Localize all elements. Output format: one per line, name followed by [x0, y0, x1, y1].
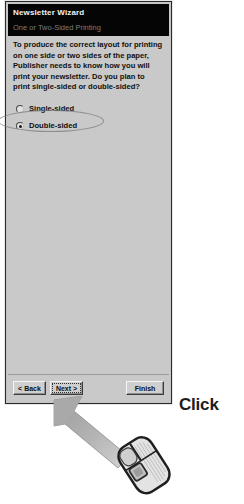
dialog-subtitle: One or Two-Sided Printing [13, 22, 169, 33]
radio-button-selected-icon[interactable] [16, 122, 24, 130]
radio-option-single-sided[interactable]: Single-sided [13, 102, 163, 116]
dialog-title-bar: Newsletter Wizard One or Two-Sided Print… [8, 4, 169, 36]
radio-label-double-sided: Double-sided [29, 121, 77, 130]
radio-label-single-sided: Single-sided [29, 104, 74, 113]
dialog-button-bar: < Back Next > Finish [8, 374, 169, 401]
click-annotation-label: Click [179, 395, 219, 415]
radio-button-icon[interactable] [16, 105, 24, 113]
instruction-text: To produce the correct layout for printi… [13, 40, 163, 93]
back-button[interactable]: < Back [13, 381, 46, 395]
finish-button[interactable]: Finish [126, 381, 164, 395]
next-button[interactable]: Next > [50, 381, 83, 395]
newsletter-wizard-dialog: Newsletter Wizard One or Two-Sided Print… [5, 1, 172, 404]
printing-sides-radio-group[interactable]: Single-sided Double-sided [13, 102, 163, 133]
dialog-body: To produce the correct layout for printi… [8, 36, 169, 374]
radio-option-double-sided[interactable]: Double-sided [13, 119, 163, 133]
computer-mouse-icon [112, 432, 178, 496]
dialog-title: Newsletter Wizard [13, 7, 169, 18]
